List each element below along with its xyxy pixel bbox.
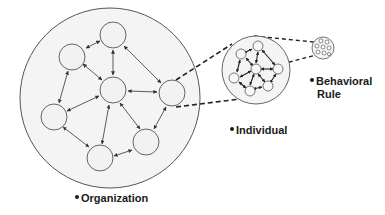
org-node-top	[100, 22, 126, 48]
org-node-bottom	[87, 145, 113, 171]
bullet-icon	[310, 78, 314, 82]
label-behavioral-rule: Behavioral Rule	[310, 75, 372, 101]
org-node-right	[159, 80, 185, 106]
bullet-icon	[75, 195, 79, 199]
behavioral-rule-circle	[312, 37, 334, 59]
org-node-center	[100, 77, 126, 103]
label-individual: Individual	[230, 124, 287, 137]
label-organization: Organization	[75, 192, 148, 205]
org-node-left	[41, 104, 67, 130]
org-node-upper-left	[59, 44, 85, 70]
org-node-bottom-right	[133, 129, 159, 155]
diagram-canvas	[0, 0, 385, 215]
bullet-icon	[230, 127, 234, 131]
individual-circle	[222, 36, 290, 104]
